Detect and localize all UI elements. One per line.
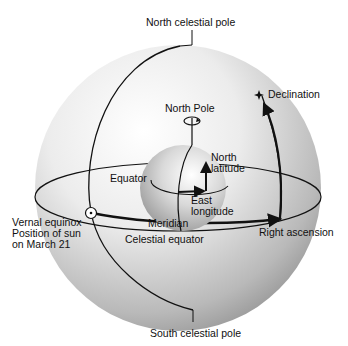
north-latitude-label-2: latitude bbox=[211, 162, 245, 174]
declination-label: Declination bbox=[268, 88, 320, 100]
east-longitude-label-2: longitude bbox=[191, 205, 234, 217]
right-ascension-label: Right ascension bbox=[259, 226, 334, 238]
equator-label: Equator bbox=[110, 172, 147, 184]
vernal-equinox-label-3: on March 21 bbox=[12, 238, 71, 250]
north-pole-label: North Pole bbox=[165, 102, 215, 114]
sun-symbol-icon bbox=[86, 208, 97, 219]
celestial-sphere-diagram: North celestial pole Declination North P… bbox=[0, 0, 348, 346]
celestial-equator-label: Celestial equator bbox=[125, 233, 204, 245]
north-celestial-pole-label: North celestial pole bbox=[146, 16, 235, 28]
east-longitude-arrow bbox=[178, 191, 204, 192]
south-celestial-pole-label: South celestial pole bbox=[150, 327, 241, 339]
meridian-label: Meridian bbox=[148, 217, 188, 229]
north-pole-leader bbox=[180, 30, 192, 46]
